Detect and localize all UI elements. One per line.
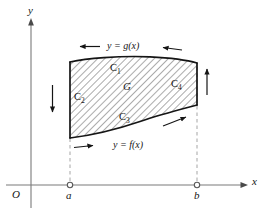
direction-arrow-c3-right	[163, 117, 186, 126]
curve-label-c2-sub: 2	[81, 96, 85, 105]
function-label-g: y = g(x)	[107, 41, 139, 51]
tick-marker-a	[67, 182, 72, 187]
curve-label-c1-name: C	[110, 62, 117, 73]
curve-label-c3-name: C	[119, 111, 126, 122]
origin-label: O	[12, 189, 20, 200]
curve-label-c4: C4	[171, 79, 182, 92]
tick-marker-b	[194, 182, 199, 187]
curve-label-c4-name: C	[171, 78, 178, 89]
region-fill	[70, 56, 197, 138]
y-axis-arrowhead	[28, 18, 34, 26]
direction-arrow-c3-left	[74, 146, 93, 148]
y-axis-label: y	[28, 5, 33, 16]
curve-label-c3-sub: 3	[126, 116, 130, 125]
x-tick-label-b: b	[194, 190, 200, 201]
x-axis-label: x	[252, 176, 257, 187]
function-label-f: y = f(x)	[113, 140, 143, 150]
curve-label-c2-name: C	[74, 91, 81, 102]
region-label-g: G	[123, 81, 131, 92]
curve-label-c1: C1	[110, 63, 121, 76]
curve-label-c4-sub: 4	[178, 83, 182, 92]
curve-label-c2: C2	[74, 92, 85, 105]
figure-canvas: y x O a b y = g(x) y = f(x) G C1 C2 C3 C…	[0, 0, 272, 212]
direction-arrow-c1-right	[163, 48, 182, 51]
x-tick-label-a: a	[66, 190, 72, 201]
curve-label-c3: C3	[119, 112, 130, 125]
figure-graphic	[0, 0, 272, 212]
curve-label-c1-sub: 1	[117, 67, 121, 76]
x-axis-arrowhead	[241, 182, 249, 188]
